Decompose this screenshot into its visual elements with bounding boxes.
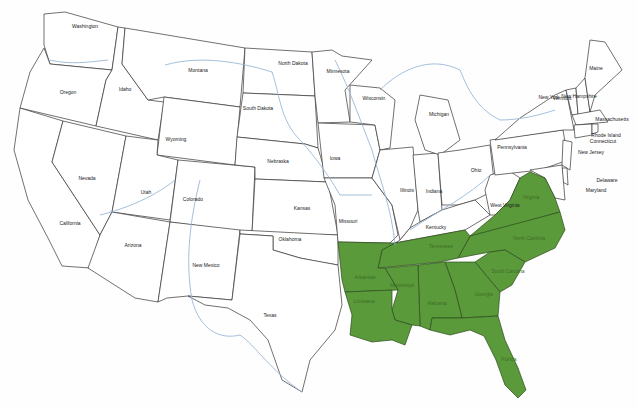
state-label-missouri: Missouri — [339, 218, 358, 224]
state-label-louisiana: Louisiana — [353, 298, 374, 304]
state-label-wyoming: Wyoming — [166, 136, 187, 142]
state-label-mississippi: Mississippi — [390, 282, 414, 288]
state-connecticut — [574, 124, 592, 138]
state-label-maryland: Maryland — [586, 187, 607, 193]
state-label-tennessee: Tennessee — [429, 243, 453, 249]
state-label-indiana: Indiana — [426, 188, 442, 194]
state-label-nevada: Nevada — [78, 175, 95, 181]
state-label-kentucky: Kentucky — [426, 224, 447, 230]
state-label-alabama: Alabama — [427, 300, 447, 306]
state-label-virginia: Virginia — [523, 194, 540, 200]
state-maine — [585, 40, 622, 112]
state-label-utah: Utah — [141, 189, 152, 195]
state-label-pennsylvania: Pennsylvania — [497, 144, 527, 150]
state-label-california: California — [59, 220, 80, 226]
state-label-iowa: Iowa — [330, 155, 341, 161]
state-label-maine: Maine — [589, 65, 603, 71]
state-label-florida: Florida — [501, 356, 516, 362]
great-lakes-shore — [380, 64, 555, 120]
state-label-delaware: Delaware — [596, 177, 617, 183]
state-label-oklahoma: Oklahoma — [279, 236, 302, 242]
state-label-idaho: Idaho — [119, 86, 132, 92]
state-label-arkansas: Arkansas — [355, 274, 376, 280]
state-north-dakota — [243, 48, 315, 96]
state-label-west-virginia: West Virginia — [490, 202, 519, 208]
state-new-jersey — [562, 140, 572, 170]
state-label-north-dakota: North Dakota — [278, 60, 307, 66]
state-label-kansas: Kansas — [294, 205, 311, 211]
state-michigan — [415, 95, 460, 155]
state-label-arizona: Arizona — [125, 242, 142, 248]
us-state-map: WashingtonOregonCaliforniaNevadaIdahoMon… — [0, 0, 638, 408]
state-label-new-hampshire: New Hampshire — [561, 93, 597, 99]
state-label-washington: Washington — [72, 23, 98, 29]
state-label-texas: Texas — [263, 312, 276, 318]
state-label-north-carolina: North Carolina — [513, 235, 545, 241]
map-outlines — [0, 0, 638, 408]
state-label-michigan: Michigan — [429, 111, 449, 117]
state-label-connecticut: Connecticut — [590, 138, 616, 144]
state-label-wisconsin: Wisconsin — [363, 95, 386, 101]
state-label-south-dakota: South Dakota — [243, 105, 273, 111]
state-label-nebraska: Nebraska — [267, 158, 288, 164]
state-label-oregon: Oregon — [60, 89, 77, 95]
state-label-ohio: Ohio — [471, 167, 482, 173]
state-label-minnesota: Minnesota — [326, 68, 349, 74]
state-label-south-carolina: South Carolina — [491, 268, 524, 274]
state-label-new-jersey: New Jersey — [578, 149, 604, 155]
state-label-massachusetts: Massachusetts — [595, 116, 628, 122]
state-label-illinois: Illinois — [400, 187, 414, 193]
state-label-georgia: Georgia — [475, 291, 493, 297]
state-wyoming — [157, 97, 240, 165]
state-iowa — [318, 123, 380, 178]
state-label-new-mexico: New Mexico — [192, 262, 219, 268]
state-label-colorado: Colorado — [183, 196, 203, 202]
state-label-montana: Montana — [188, 67, 207, 73]
